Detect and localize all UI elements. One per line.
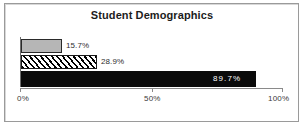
x-tick-label-50: 50%: [144, 94, 161, 103]
x-tick-100: [282, 88, 283, 92]
bar-series-1: [21, 39, 62, 53]
x-tick-label-100: 100%: [268, 94, 289, 103]
bar-label-series-2: 28.9%: [101, 57, 124, 66]
x-tick-label-0: 0%: [17, 94, 29, 103]
chart-figure: Student Demographics 15.7% 28.9% 89.7% 0…: [0, 0, 304, 126]
x-tick-0: [20, 88, 21, 92]
bar-label-series-1: 15.7%: [66, 41, 89, 50]
bar-label-series-3: 89.7%: [213, 74, 241, 83]
plot-area: 15.7% 28.9% 89.7% 0% 50% 100%: [21, 38, 283, 88]
x-tick-50: [152, 88, 153, 92]
chart-title: Student Demographics: [0, 9, 304, 21]
bar-series-2: [21, 55, 97, 69]
